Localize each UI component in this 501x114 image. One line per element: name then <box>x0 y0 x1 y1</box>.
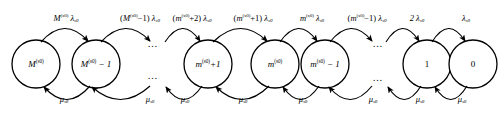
transition-arc <box>435 86 467 100</box>
transition-arc <box>388 86 421 100</box>
transition-arc <box>216 86 269 100</box>
transition-arc <box>386 28 419 42</box>
transition-arc <box>165 28 200 42</box>
diagram-canvas <box>0 0 501 114</box>
state-circle <box>72 40 120 88</box>
transition-arc <box>101 28 150 42</box>
state-circle <box>251 40 299 88</box>
transition-arc <box>44 86 90 100</box>
markov-chain-diagram: M(s0)M(s0) − 1m(s0)+1m(s0)m(s0) − 110 M(… <box>0 0 501 114</box>
state-circle <box>301 40 349 88</box>
transition-arc <box>330 28 372 42</box>
state-circles <box>12 40 497 88</box>
transition-arc <box>166 86 202 100</box>
transition-arc <box>283 86 319 100</box>
transition-arc <box>432 28 465 42</box>
state-circle <box>403 40 451 88</box>
state-circle <box>12 40 60 88</box>
transition-arc <box>329 86 372 100</box>
transition-arc <box>41 28 88 42</box>
state-circle <box>184 40 232 88</box>
transition-arc <box>280 28 317 42</box>
state-circle <box>449 40 497 88</box>
transition-arc <box>213 28 267 42</box>
